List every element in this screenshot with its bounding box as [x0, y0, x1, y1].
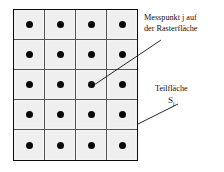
grid-cell-r5c4[interactable]	[107, 130, 137, 160]
measurement-point-dot	[119, 142, 126, 149]
grid-cell-r1c3[interactable]	[76, 10, 107, 40]
grid-cell-r2c4[interactable]	[107, 40, 137, 70]
figure-rasterflaeche: Messpunkt j auf der Rasterfläche Teilflä…	[0, 0, 224, 172]
measurement-point-dot	[88, 21, 95, 28]
measurement-point-dot	[119, 21, 126, 28]
annotation-measurement-point-line2: der Rasterfläche	[144, 23, 197, 34]
measurement-point-dot	[26, 142, 33, 149]
subarea-symbol-subscript: i	[173, 101, 175, 107]
grid-cell-r1c4[interactable]	[107, 10, 137, 40]
grid-cell-r5c3[interactable]	[76, 130, 107, 160]
measurement-point-dot-highlighted	[88, 81, 95, 88]
grid-cell-r2c1[interactable]	[14, 40, 45, 70]
grid-cell-r3c4[interactable]	[107, 70, 137, 100]
measurement-point-dot	[88, 142, 95, 149]
grid-cell-r4c2[interactable]	[45, 100, 76, 130]
measurement-point-dot	[26, 21, 33, 28]
grid-cell-r1c2[interactable]	[45, 10, 76, 40]
measurement-grid	[13, 9, 138, 161]
measurement-point-dot	[57, 111, 64, 118]
measurement-point-dot	[119, 111, 126, 118]
grid-cell-r4c3[interactable]	[76, 100, 107, 130]
table-row	[14, 130, 137, 160]
measurement-point-dot	[57, 81, 64, 88]
annotation-measurement-point: Messpunkt j auf der Rasterfläche	[144, 12, 197, 34]
table-row	[14, 40, 137, 70]
measurement-point-dot	[57, 142, 64, 149]
measurement-point-dot	[26, 51, 33, 58]
grid-cell-r3c3[interactable]	[76, 70, 107, 100]
measurement-point-dot	[57, 51, 64, 58]
table-row	[14, 10, 137, 40]
grid-cell-r3c2[interactable]	[45, 70, 76, 100]
grid-cell-r4c4[interactable]	[107, 100, 137, 130]
measurement-point-dot	[119, 51, 126, 58]
measurement-point-dot	[57, 21, 64, 28]
grid-cell-r3c1[interactable]	[14, 70, 45, 100]
table-row	[14, 70, 137, 100]
grid-cell-r2c2[interactable]	[45, 40, 76, 70]
annotation-subarea-label: Teilfläche	[155, 83, 188, 94]
annotation-measurement-point-line1: Messpunkt j auf	[144, 12, 197, 23]
annotation-subarea-symbol: Si	[168, 95, 175, 110]
measurement-point-dot	[119, 81, 126, 88]
grid-cell-r2c3[interactable]	[76, 40, 107, 70]
grid-cell-r5c2[interactable]	[45, 130, 76, 160]
measurement-point-dot	[26, 111, 33, 118]
measurement-point-dot	[88, 111, 95, 118]
measurement-point-dot	[88, 51, 95, 58]
grid-cell-r4c1[interactable]	[14, 100, 45, 130]
grid-cell-r5c1[interactable]	[14, 130, 45, 160]
grid-cell-r1c1[interactable]	[14, 10, 45, 40]
table-row	[14, 100, 137, 130]
measurement-point-dot	[26, 81, 33, 88]
